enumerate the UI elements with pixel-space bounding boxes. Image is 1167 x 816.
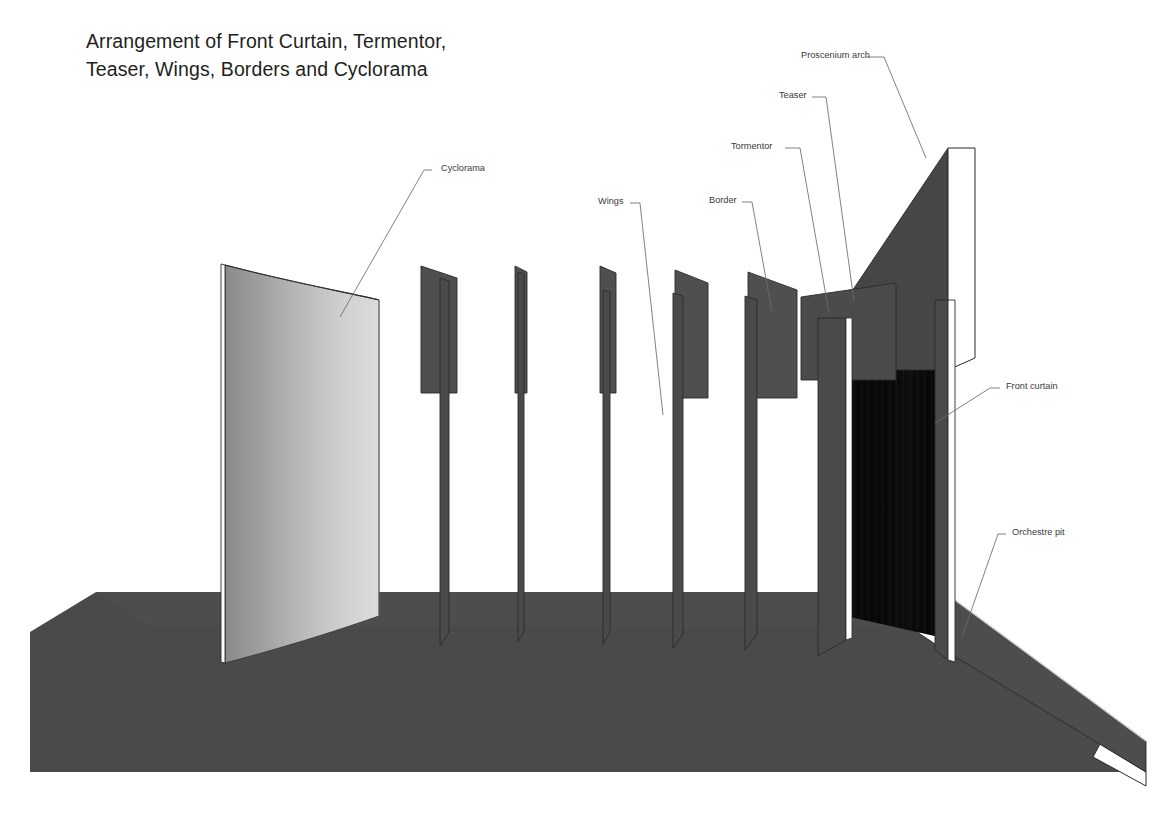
leader-proscenium — [866, 57, 926, 158]
label-proscenium-arch: Proscenium arch — [801, 51, 870, 60]
label-wings: Wings — [598, 197, 624, 206]
wing-unit-1 — [421, 266, 457, 646]
wing-unit-4 — [673, 270, 708, 648]
label-teaser: Teaser — [779, 91, 807, 100]
diagram-page: Arrangement of Front Curtain, Termentor,… — [0, 0, 1167, 816]
leader-wings — [630, 203, 663, 415]
label-orchestre-pit: Orchestre pit — [1012, 528, 1065, 537]
label-cyclorama: Cyclorama — [441, 164, 485, 173]
wing-unit-3 — [600, 266, 616, 644]
label-border: Border — [709, 196, 737, 205]
label-front-curtain: Front curtain — [1006, 382, 1058, 391]
stage-diagram — [0, 0, 1167, 816]
leader-teaser — [812, 97, 854, 301]
label-tormentor: Tormentor — [731, 142, 772, 151]
wing-unit-2 — [515, 266, 527, 642]
tormentor — [818, 318, 852, 656]
cyclorama — [221, 264, 379, 663]
